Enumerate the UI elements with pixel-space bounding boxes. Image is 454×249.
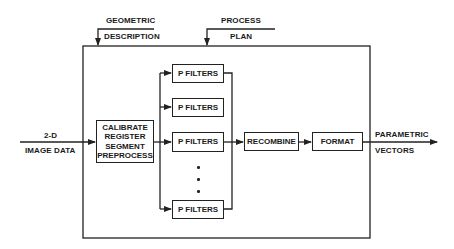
recombine-block: RECOMBINE	[244, 132, 299, 151]
preprocess-line-preprocess: PREPROCESS	[97, 151, 153, 161]
preprocess-line-register: REGISTER	[105, 132, 146, 142]
p-filter-block-2: P FILTERS	[172, 98, 224, 117]
ellipsis-dot-1	[197, 166, 200, 169]
p-filter-block-3: P FILTERS	[172, 132, 224, 152]
process-label-line2: PLAN	[230, 32, 252, 41]
ellipsis-dot-2	[197, 178, 200, 181]
geometric-label-line1: GEOMETRIC	[106, 16, 155, 25]
output-label-line1: PARAMETRIC	[375, 130, 429, 139]
preprocess-block: CALIBRATE REGISTER SEGMENT PREPROCESS	[96, 120, 154, 163]
process-label-line1: PROCESS	[221, 16, 261, 25]
preprocess-line-segment: SEGMENT	[105, 142, 145, 152]
format-block: FORMAT	[312, 132, 363, 151]
image-label-line2: IMAGE DATA	[25, 146, 75, 155]
image-label-line1: 2-D	[44, 131, 57, 140]
diagram-connectors	[0, 0, 454, 249]
geometric-label-line2: DESCRIPTION	[104, 32, 160, 41]
ellipsis-dot-3	[197, 190, 200, 193]
p-filter-block-n: P FILTERS	[172, 200, 224, 219]
output-label-line2: VECTORS	[375, 146, 414, 155]
fanin-bus	[224, 73, 232, 209]
p-filter-block-1: P FILTERS	[172, 64, 224, 83]
preprocess-line-calibrate: CALIBRATE	[102, 123, 148, 133]
